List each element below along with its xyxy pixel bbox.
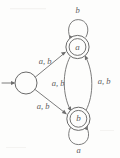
state-b-label: b bbox=[76, 113, 81, 123]
state-node-b[interactable]: b bbox=[67, 107, 90, 130]
automaton-diagram: a b a, b a, b a, b a, b b a bbox=[0, 0, 120, 158]
state-node-start[interactable] bbox=[15, 72, 37, 94]
edge-label-start-to-a: a, b bbox=[39, 56, 52, 66]
edge-label-start-to-b: a, b bbox=[37, 101, 50, 111]
edge-label-b-to-a: a, b bbox=[98, 76, 111, 86]
automaton-canvas: a b a, b a, b a, b a, b b a bbox=[0, 0, 120, 158]
edge-label-a-to-b: a, b bbox=[52, 78, 65, 88]
edge-a-to-b bbox=[64, 57, 71, 112]
state-a-label: a bbox=[75, 42, 80, 52]
state-node-a[interactable]: a bbox=[66, 35, 89, 58]
loop-label-state-a: b bbox=[75, 5, 79, 15]
start-arrow bbox=[2, 81, 16, 85]
loop-label-state-b: a bbox=[76, 145, 80, 155]
edge-b-to-a bbox=[85, 55, 92, 110]
